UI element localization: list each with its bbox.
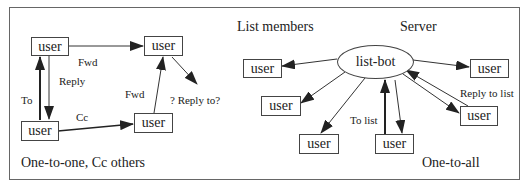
user-node-bottom-left: user (21, 121, 59, 141)
edge-label-cc: Cc (76, 112, 88, 123)
node-label: user (152, 38, 175, 54)
node-label: user (383, 136, 406, 152)
edge-label-fwd-middle: Fwd (125, 89, 145, 100)
user-node-right-2: user (460, 106, 498, 126)
node-label: user (307, 136, 330, 152)
edge-label-to: To (21, 95, 32, 106)
node-label: user (478, 61, 501, 77)
node-label: user (28, 123, 51, 139)
caption-one-to-all: One-to-all (422, 156, 480, 170)
edge-label-reply-to-question: ? Reply to? (170, 95, 220, 106)
user-node-middle: user (134, 113, 173, 133)
user-node-bottom: user (375, 134, 414, 154)
edge-label-reply: Reply (59, 76, 85, 87)
edge-label-reply-to-list: Reply to list (460, 88, 514, 99)
node-label: user (142, 115, 165, 131)
edge-label-fwd-top: Fwd (78, 57, 98, 68)
edge-label-to-list: To list (350, 115, 378, 126)
node-label: user (251, 61, 274, 77)
user-node-top-left: user (31, 37, 69, 56)
node-label: list-bot (356, 54, 396, 70)
user-node-left-3: user (299, 134, 339, 154)
caption-one-to-one: One-to-one, Cc others (21, 156, 145, 170)
node-label: user (38, 39, 61, 55)
server-node-list-bot: list-bot (337, 45, 414, 79)
user-node-left-1: user (243, 59, 282, 78)
node-label: user (467, 108, 490, 124)
heading-server: Server (400, 20, 437, 34)
user-node-left-2: user (261, 96, 301, 116)
heading-list-members: List members (237, 20, 314, 34)
user-node-top-right: user (144, 36, 183, 56)
user-node-right-1: user (470, 59, 509, 78)
node-label: user (269, 98, 292, 114)
